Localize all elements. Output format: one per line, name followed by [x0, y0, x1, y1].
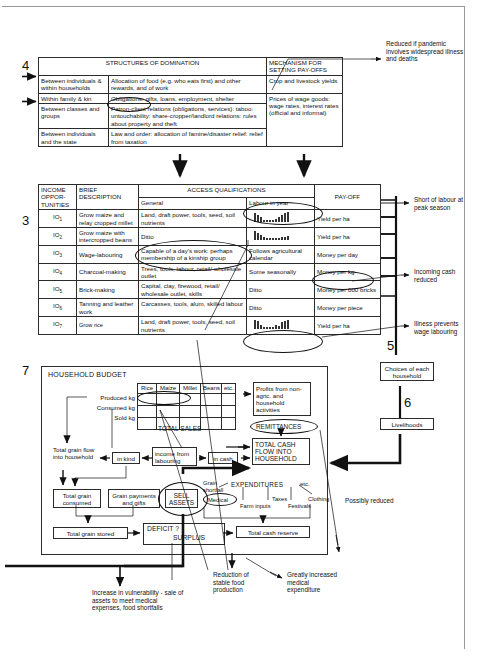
- budget-connectors: [0, 0, 481, 651]
- note-medical-expenditure: Greatly increased medical expenditure: [287, 571, 339, 594]
- note-stable-food: Reduction of stable food production: [213, 571, 259, 594]
- note-possibly-reduced: Possibly reduced: [345, 497, 395, 505]
- note-vulnerability: Increase in vulnerability - sale of asse…: [92, 589, 184, 612]
